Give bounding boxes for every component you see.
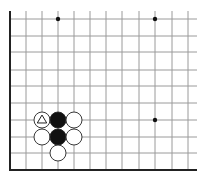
white-stone	[66, 112, 82, 128]
star-point	[153, 118, 157, 122]
black-stone	[50, 112, 66, 128]
black-stone	[50, 129, 66, 145]
white-stone	[34, 112, 50, 128]
white-stone	[50, 145, 66, 161]
black-stone-disc	[50, 129, 66, 145]
white-stone	[34, 129, 50, 145]
white-stone-disc	[34, 129, 50, 145]
star-point	[153, 17, 157, 21]
white-stone-disc	[66, 112, 82, 128]
grid-lines	[9, 11, 197, 171]
black-stone-disc	[50, 112, 66, 128]
white-stone	[66, 129, 82, 145]
go-board	[0, 0, 200, 177]
white-stone-disc	[50, 145, 66, 161]
stones	[34, 112, 82, 161]
star-point	[56, 17, 60, 21]
white-stone-disc	[66, 129, 82, 145]
